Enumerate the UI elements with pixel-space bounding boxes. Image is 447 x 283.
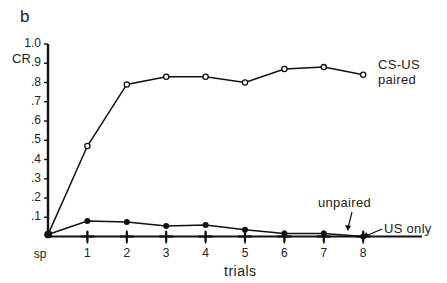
- cs-us-paired-marker-circle: [85, 143, 90, 148]
- panel-label: b: [20, 8, 29, 25]
- cs-us-paired-marker-circle: [282, 66, 287, 71]
- y-tick-label: .7: [11, 95, 41, 107]
- cs-us-paired-marker-circle: [321, 65, 326, 70]
- unpaired-marker-dot: [163, 223, 169, 229]
- cr-line-chart: b CR .1 .2 .3 .4 .5 .6 .7 .8 .9 1.0 sp 1…: [0, 0, 447, 283]
- x-tick-label: 7: [314, 247, 334, 259]
- y-tick-label: .9: [11, 56, 41, 68]
- cs-us-paired-marker-circle: [164, 74, 169, 79]
- unpaired-marker-dot: [242, 227, 248, 233]
- cs-us-paired-marker-circle: [361, 72, 366, 77]
- y-tick-label: .6: [11, 114, 41, 126]
- x-tick-label: 3: [156, 247, 176, 259]
- y-tick-label: 1.0: [11, 37, 41, 49]
- unpaired-marker-dot: [321, 231, 327, 237]
- x-tick-label: sp: [30, 248, 50, 260]
- x-axis-label: trials: [224, 264, 257, 278]
- cs-us-paired-line: [48, 67, 363, 234]
- unpaired-marker-dot: [84, 218, 90, 224]
- y-tick-label: .3: [11, 172, 41, 184]
- series-label-unpaired: unpaired: [318, 196, 371, 209]
- unpaired-marker-dot: [124, 219, 130, 225]
- y-tick-label: .1: [11, 210, 41, 222]
- x-tick-label: 5: [235, 247, 255, 259]
- unpaired-marker-dot: [203, 222, 209, 228]
- us-only-pointer-arrow: [368, 229, 382, 235]
- series-label-cs-us-paired-line2: paired: [378, 73, 416, 86]
- y-tick-label: .2: [11, 191, 41, 203]
- cs-us-paired-marker-circle: [124, 82, 129, 87]
- series-label-cs-us-paired: CS-US: [378, 58, 420, 71]
- unpaired-marker-dot: [281, 231, 287, 237]
- x-tick-label: 1: [77, 247, 97, 259]
- y-tick-label: .8: [11, 76, 41, 88]
- x-tick-label: 2: [117, 247, 137, 259]
- unpaired-pointer-arrowhead: [345, 225, 351, 231]
- plot-area: [0, 0, 447, 283]
- cs-us-paired-marker-circle: [242, 80, 247, 85]
- x-tick-label: 4: [196, 247, 216, 259]
- cs-us-paired-marker-circle: [203, 74, 208, 79]
- origin-marker: [46, 232, 52, 238]
- x-tick-label: 8: [353, 247, 373, 259]
- series-label-us-only: US only: [384, 222, 432, 235]
- y-tick-label: .4: [11, 153, 41, 165]
- y-tick-label: .5: [11, 133, 41, 145]
- x-tick-label: 6: [274, 247, 294, 259]
